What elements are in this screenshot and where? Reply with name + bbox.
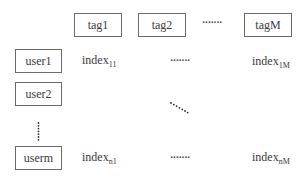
- diagonal-ellipsis-icon: [170, 102, 188, 113]
- ellipsis-dots-layer: [0, 0, 305, 179]
- vertical-ellipsis-icon: [38, 122, 40, 141]
